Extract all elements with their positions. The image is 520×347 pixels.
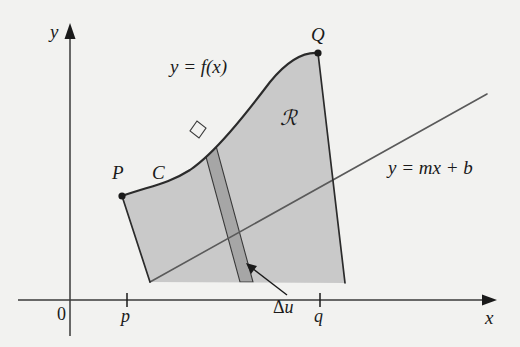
point-label-Q: Q	[311, 25, 325, 44]
y-axis	[65, 23, 76, 336]
right-angle-marker	[190, 121, 206, 138]
x-axis	[18, 295, 497, 306]
function-equation-label: y = f(x)	[170, 57, 227, 76]
line-equation-label: y = mx + b	[388, 158, 473, 177]
delta-symbol: Δ	[273, 297, 285, 317]
curve-label-C: C	[152, 163, 165, 182]
delta-u-variable: u	[285, 297, 294, 317]
y-axis-label: y	[50, 22, 58, 41]
x-tick-label-q: q	[314, 307, 323, 325]
delta-u-label: Δu	[273, 298, 294, 316]
point-P-dot	[118, 192, 125, 199]
math-figure: y x 0 p q P Q C y = f(x) y = mx + b ℛ Δu	[0, 0, 520, 347]
x-tick-label-p: p	[121, 307, 130, 325]
x-axis-label: x	[485, 308, 493, 327]
region-label-R: ℛ	[280, 108, 297, 129]
origin-label: 0	[57, 305, 66, 323]
point-Q-dot	[314, 49, 321, 56]
point-label-P: P	[112, 163, 124, 182]
